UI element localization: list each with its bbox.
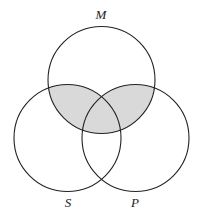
label-s: S [65,195,72,210]
shaded-region [14,85,189,192]
label-m: M [95,7,108,22]
venn-diagram: M S P [0,0,199,215]
label-p: P [130,195,139,210]
